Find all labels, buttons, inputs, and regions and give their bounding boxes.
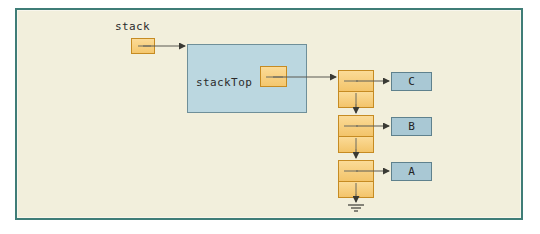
data-box-a-label: A <box>408 165 415 178</box>
node-data-cell <box>338 115 374 137</box>
stack-top-pointer-box <box>260 66 287 87</box>
data-box-a: A <box>391 162 432 181</box>
stack-pointer-box <box>131 38 155 54</box>
node-next-cell <box>338 181 374 198</box>
stack-top-label: stackTop <box>196 76 252 89</box>
data-box-c: C <box>391 72 432 91</box>
data-box-c-label: C <box>408 75 415 88</box>
frame-inner-highlight <box>17 10 521 218</box>
list-node <box>338 115 374 153</box>
stack-label: stack <box>115 20 150 33</box>
node-data-cell <box>338 160 374 182</box>
list-node <box>338 70 374 108</box>
data-box-b-label: B <box>408 120 415 133</box>
node-next-cell <box>338 91 374 108</box>
node-data-cell <box>338 70 374 92</box>
diagram-frame <box>15 8 523 220</box>
diagram-canvas: stack stackTop C B A <box>0 0 540 234</box>
list-node <box>338 160 374 198</box>
node-next-cell <box>338 136 374 153</box>
data-box-b: B <box>391 117 432 136</box>
